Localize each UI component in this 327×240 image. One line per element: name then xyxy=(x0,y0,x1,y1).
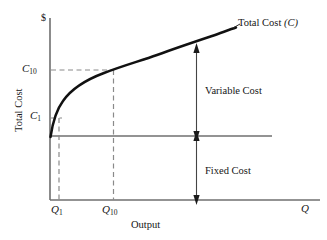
x-tick-q1-base: Q xyxy=(51,203,59,215)
x-tick-q10-base: Q xyxy=(102,203,110,215)
variable-cost-label: Variable Cost xyxy=(205,86,262,97)
y-tick-label-c1: C1 xyxy=(30,110,41,121)
x-tick-label-q1: Q1 xyxy=(51,204,63,215)
y-axis-unit: $ xyxy=(41,13,46,23)
total-cost-curve-label: Total Cost (C) xyxy=(238,18,298,29)
x-axis-end-symbol: Q xyxy=(301,203,309,214)
x-axis-title: Output xyxy=(131,220,160,231)
chart-canvas xyxy=(0,0,327,240)
variable-cost-arrow xyxy=(193,43,199,141)
fixed-cost-arrow xyxy=(193,131,199,205)
y-tick-c10-sub: 10 xyxy=(29,67,37,76)
total-cost-curve-symbol: (C) xyxy=(284,17,298,28)
total-cost-curve-label-text: Total Cost xyxy=(238,17,281,28)
x-tick-q10-sub: 10 xyxy=(110,208,118,217)
y-axis-title: Total Cost xyxy=(14,75,25,145)
x-tick-label-q10: Q10 xyxy=(102,204,117,215)
total-cost-chart: Total Cost $ C10 C1 Q1 Q10 Q Output Tota… xyxy=(0,0,327,240)
y-tick-c1-sub: 1 xyxy=(37,114,41,123)
total-cost-curve xyxy=(51,28,237,138)
x-tick-q1-sub: 1 xyxy=(59,208,63,217)
fixed-cost-label: Fixed Cost xyxy=(205,166,251,177)
y-tick-label-c10: C10 xyxy=(22,63,37,74)
